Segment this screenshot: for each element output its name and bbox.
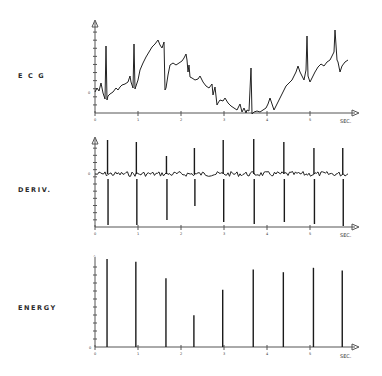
x-tick-label: 2 <box>180 118 182 122</box>
ecg-sec-label: SEC. <box>340 118 352 124</box>
x-tick-label: 4 <box>266 352 269 356</box>
x-tick-label: 0 <box>94 118 96 122</box>
deriv-y-origin-label: 0 <box>88 172 90 176</box>
deriv-sec-label: SEC. <box>340 232 352 238</box>
x-tick-label: 2 <box>180 352 182 356</box>
energy-spikes <box>107 259 342 347</box>
x-tick-label: 4 <box>266 118 269 122</box>
x-tick-label: 4 <box>266 232 269 236</box>
energy-panel: ^ 012345 0 SEC. <box>89 255 359 359</box>
ecg-trace <box>95 30 348 114</box>
energy-sec-label: SEC. <box>340 353 352 359</box>
x-tick-label: 2 <box>180 232 182 236</box>
x-tick-label: 1 <box>137 232 139 236</box>
energy-y-axis-top-label: ^ <box>93 255 96 259</box>
ecg-panel: 012345 0 SEC. <box>88 20 359 124</box>
x-tick-label: 5 <box>309 118 311 122</box>
x-tick-label: 0 <box>94 352 96 356</box>
chart-canvas: 012345 0 SEC. 012345 0 SEC. ^ 012345 0 S… <box>0 0 382 376</box>
x-tick-label: 0 <box>94 232 96 236</box>
deriv-spikes <box>108 139 344 226</box>
x-tick-label: 5 <box>309 232 311 236</box>
deriv-trace <box>95 172 348 177</box>
ecg-y-origin-label: 0 <box>88 91 90 95</box>
x-tick-label: 3 <box>223 232 225 236</box>
x-tick-label: 5 <box>309 352 311 356</box>
energy-y-origin-label: 0 <box>89 346 91 350</box>
x-tick-label: 3 <box>223 352 225 356</box>
x-tick-label: 1 <box>137 352 139 356</box>
x-tick-label: 3 <box>223 118 225 122</box>
deriv-panel: 012345 0 SEC. <box>88 137 359 238</box>
x-tick-label: 1 <box>137 118 139 122</box>
